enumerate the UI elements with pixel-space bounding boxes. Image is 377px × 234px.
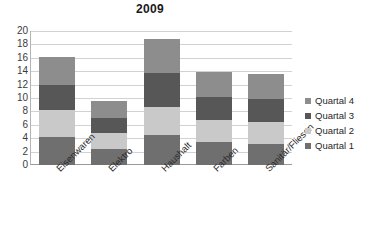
legend-swatch-icon — [305, 128, 311, 134]
x-axis-labels: EisenwarenElektroHaushaltFarbenSanitär/F… — [0, 166, 300, 234]
bar-segment[interactable] — [248, 74, 284, 99]
bar-segment[interactable] — [144, 73, 180, 107]
y-axis-tick-label: 6 — [2, 120, 28, 130]
chart-legend: Quartal 4Quartal 3Quartal 2Quartal 1 — [305, 93, 377, 153]
bar-segment[interactable] — [144, 107, 180, 135]
y-axis-tick-label: 4 — [2, 133, 28, 143]
legend-label: Quartal 1 — [315, 140, 354, 151]
bar-segment[interactable] — [91, 118, 127, 133]
bar-segment[interactable] — [196, 72, 232, 97]
bar-segment[interactable] — [144, 39, 180, 73]
legend-swatch-icon — [305, 113, 311, 119]
bar-segment[interactable] — [39, 110, 75, 137]
bar-segment[interactable] — [39, 85, 75, 110]
legend-label: Quartal 3 — [315, 110, 354, 121]
y-axis-tick-label: 20 — [2, 26, 28, 36]
chart-container: 2009 02468101214161820 EisenwarenElektro… — [0, 0, 377, 234]
y-axis: 02468101214161820 — [0, 31, 28, 165]
legend-swatch-icon — [305, 98, 311, 104]
legend-item[interactable]: Quartal 3 — [305, 108, 377, 123]
bar-group[interactable] — [144, 39, 180, 165]
bar-segment[interactable] — [39, 57, 75, 85]
legend-item[interactable]: Quartal 1 — [305, 138, 377, 153]
y-axis-tick-label: 10 — [2, 93, 28, 103]
bar-segment[interactable] — [248, 122, 284, 143]
bar-segment[interactable] — [91, 101, 127, 118]
y-axis-tick-label: 18 — [2, 39, 28, 49]
y-axis-tick-label: 12 — [2, 80, 28, 90]
y-axis-tick-label: 16 — [2, 53, 28, 63]
legend-label: Quartal 4 — [315, 95, 354, 106]
chart-title: 2009 — [0, 2, 300, 16]
bar-segment[interactable] — [248, 99, 284, 122]
y-axis-tick-label: 8 — [2, 106, 28, 116]
y-axis-tick-label: 2 — [2, 147, 28, 157]
legend-item[interactable]: Quartal 2 — [305, 123, 377, 138]
bar-segment[interactable] — [196, 97, 232, 120]
y-axis-tick-label: 14 — [2, 66, 28, 76]
bar-segment[interactable] — [91, 133, 127, 149]
legend-label: Quartal 2 — [315, 125, 354, 136]
legend-swatch-icon — [305, 143, 311, 149]
bar-segment[interactable] — [196, 120, 232, 141]
legend-item[interactable]: Quartal 4 — [305, 93, 377, 108]
bars-layer — [31, 31, 292, 165]
